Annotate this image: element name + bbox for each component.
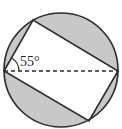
diagram: 55° <box>0 0 122 129</box>
angle-label: 55° <box>20 54 40 69</box>
